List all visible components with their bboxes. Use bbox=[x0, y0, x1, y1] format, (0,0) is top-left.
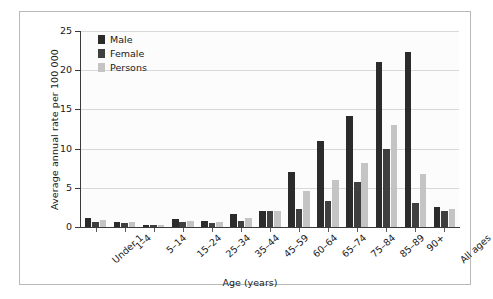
bar-female bbox=[412, 203, 419, 227]
x-axis-tick-mark bbox=[299, 228, 300, 232]
bar-female bbox=[92, 222, 99, 227]
legend-swatch-persons bbox=[98, 63, 105, 72]
bar-female bbox=[354, 182, 361, 227]
legend-swatch-male bbox=[98, 35, 105, 44]
x-axis-tick-mark bbox=[444, 228, 445, 232]
bar-group bbox=[230, 31, 252, 227]
legend-label: Male bbox=[110, 34, 133, 45]
legend: MaleFemalePersons bbox=[98, 33, 178, 75]
bar-male bbox=[201, 221, 208, 227]
y-axis-tick-label: 0 bbox=[66, 222, 72, 232]
bar-group bbox=[346, 31, 368, 227]
y-axis-tick-label: 10 bbox=[60, 144, 72, 154]
bar-persons bbox=[274, 211, 281, 227]
y-axis-tick-labels: 0510152025 bbox=[36, 0, 72, 299]
y-axis-tick-mark bbox=[75, 149, 80, 150]
bar-persons bbox=[303, 191, 310, 227]
bar-female bbox=[441, 211, 448, 227]
bar-persons bbox=[100, 220, 107, 227]
x-axis-label: Age (years) bbox=[140, 277, 360, 288]
bar-persons bbox=[332, 180, 339, 227]
bar-group bbox=[288, 31, 310, 227]
y-axis-tick-label: 25 bbox=[60, 26, 72, 36]
bar-persons bbox=[245, 218, 252, 227]
bar-female bbox=[267, 211, 274, 227]
y-axis-tick-label: 15 bbox=[60, 104, 72, 114]
bar-group bbox=[405, 31, 427, 227]
bar-persons bbox=[158, 225, 165, 227]
x-axis-tick-mark bbox=[96, 228, 97, 232]
bar-male bbox=[143, 225, 150, 227]
bar-persons bbox=[361, 163, 368, 227]
bar-male bbox=[346, 116, 353, 227]
bar-male bbox=[288, 172, 295, 227]
bar-group bbox=[201, 31, 223, 227]
bar-male bbox=[172, 219, 179, 227]
y-axis-tick-label: 5 bbox=[66, 183, 72, 193]
legend-item: Female bbox=[98, 47, 178, 60]
bar-female bbox=[296, 209, 303, 227]
y-axis-tick-label: 20 bbox=[60, 65, 72, 75]
x-axis-tick-mark bbox=[386, 228, 387, 232]
legend-item: Persons bbox=[98, 61, 178, 74]
bar-male bbox=[317, 141, 324, 227]
bar-group bbox=[376, 31, 398, 227]
bar-female bbox=[121, 223, 128, 227]
bar-persons bbox=[449, 209, 456, 227]
y-axis-tick-mark bbox=[75, 188, 80, 189]
bar-male bbox=[434, 207, 441, 227]
bar-group bbox=[317, 31, 339, 227]
legend-swatch-female bbox=[98, 49, 105, 58]
bar-persons bbox=[187, 221, 194, 227]
bar-male bbox=[114, 222, 121, 227]
x-axis-tick-mark bbox=[125, 228, 126, 232]
legend-item: Male bbox=[98, 33, 178, 46]
bar-group bbox=[434, 31, 456, 227]
x-axis-tick-mark bbox=[270, 228, 271, 232]
bar-female bbox=[238, 221, 245, 227]
y-axis-tick-mark bbox=[75, 31, 80, 32]
x-axis-tick-mark bbox=[183, 228, 184, 232]
y-axis-tick-mark bbox=[75, 227, 80, 228]
bar-group bbox=[259, 31, 281, 227]
x-axis-tick-mark bbox=[212, 228, 213, 232]
bar-male bbox=[376, 62, 383, 227]
bar-persons bbox=[391, 125, 398, 227]
x-axis-tick-mark bbox=[241, 228, 242, 232]
bar-female bbox=[383, 149, 390, 227]
legend-label: Female bbox=[110, 48, 144, 59]
y-axis-tick-mark bbox=[75, 109, 80, 110]
x-axis-tick-mark bbox=[357, 228, 358, 232]
x-axis-tick-mark bbox=[328, 228, 329, 232]
bar-female bbox=[179, 222, 186, 227]
bar-female bbox=[325, 201, 332, 227]
x-axis-tick-mark bbox=[154, 228, 155, 232]
y-axis-tick-mark bbox=[75, 70, 80, 71]
bar-male bbox=[405, 52, 412, 227]
bar-female bbox=[150, 225, 157, 227]
bar-persons bbox=[420, 174, 427, 227]
bar-persons bbox=[129, 222, 136, 227]
bar-male bbox=[230, 214, 237, 227]
bar-persons bbox=[216, 222, 223, 227]
x-axis-tick-mark bbox=[415, 228, 416, 232]
bar-female bbox=[209, 223, 216, 227]
bar-male bbox=[259, 211, 266, 227]
bar-male bbox=[85, 218, 92, 227]
legend-label: Persons bbox=[110, 62, 147, 73]
